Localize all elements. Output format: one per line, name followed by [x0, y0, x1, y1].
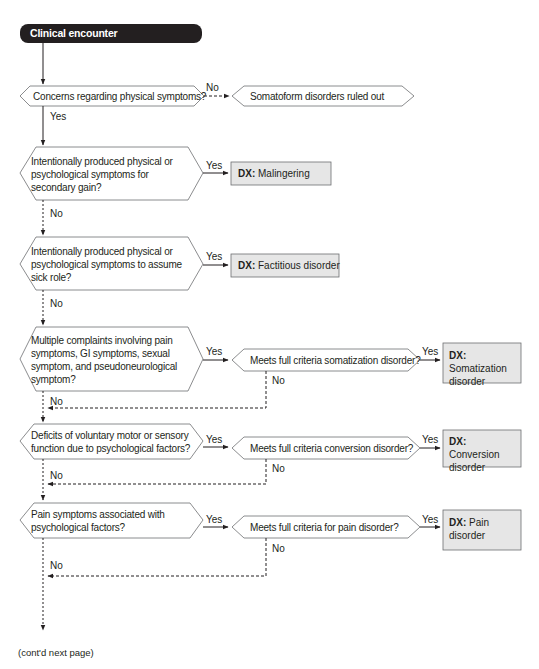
q5-sub-no-label: No — [272, 463, 285, 475]
q6-sub-text: Meets full criteria for pain disorder? — [250, 521, 399, 534]
dx-prefix: DX: — [238, 168, 255, 179]
start-label: Clinical encounter — [30, 27, 117, 40]
dx-prefix: DX: — [238, 260, 255, 271]
q4-sub-yes-label: Yes — [422, 346, 438, 358]
q3-no-label: No — [50, 298, 63, 310]
q5-sub-yes-label: Yes — [422, 434, 438, 446]
q4-sub-no-label: No — [272, 375, 285, 387]
ruled-out-text: Somatoform disorders ruled out — [250, 90, 384, 103]
q6-no-label: No — [50, 560, 63, 572]
q2-text: Intentionally produced physical or psych… — [31, 155, 191, 194]
dx-somatization-text: DX: Somatization disorder — [449, 349, 519, 388]
dx-prefix: DX: — [449, 350, 466, 361]
q4-no-label: No — [50, 396, 63, 408]
dx-name: Factitious disorder — [258, 260, 340, 271]
q6-text: Pain symptoms associated with psychologi… — [31, 508, 181, 534]
q3-text: Intentionally produced physical or psych… — [31, 245, 191, 284]
q6-yes-label: Yes — [206, 514, 222, 526]
q4-yes-label: Yes — [206, 346, 222, 358]
q5-no-label: No — [50, 470, 63, 482]
dx-pain-text: DX: Pain disorder — [449, 516, 519, 542]
dx-malingering-text: DX: Malingering — [238, 167, 310, 180]
dx-prefix: DX: — [449, 517, 466, 528]
q5-yes-label: Yes — [206, 434, 222, 446]
dx-name: Malingering — [258, 168, 310, 179]
dx-conversion-text: DX: Conversion disorder — [449, 435, 519, 474]
q4-text: Multiple complaints involving pain sympt… — [31, 334, 181, 386]
dx-factitious-text: DX: Factitious disorder — [238, 259, 340, 272]
q1-text: Concerns regarding physical symptoms? — [33, 90, 206, 103]
arrow-q5-sub-no — [48, 459, 266, 484]
dx-name: Conversion disorder — [449, 449, 500, 473]
q6-sub-no-label: No — [272, 543, 285, 555]
arrow-q6-sub-no — [48, 538, 266, 576]
q1-no-label: No — [206, 82, 219, 94]
q3-yes-label: Yes — [206, 251, 222, 263]
q2-yes-label: Yes — [206, 160, 222, 172]
q1-yes-label: Yes — [50, 111, 66, 123]
continued-note: (cont'd next page) — [18, 647, 94, 658]
q5-text: Deficits of voluntary motor or sensory f… — [31, 429, 196, 455]
q5-sub-text: Meets full criteria conversion disorder? — [250, 442, 413, 455]
q6-sub-yes-label: Yes — [422, 514, 438, 526]
dx-name: Somatization disorder — [449, 363, 507, 387]
dx-prefix: DX: — [449, 436, 466, 447]
q4-sub-text: Meets full criteria somatization disorde… — [250, 354, 421, 367]
q2-no-label: No — [50, 208, 63, 220]
